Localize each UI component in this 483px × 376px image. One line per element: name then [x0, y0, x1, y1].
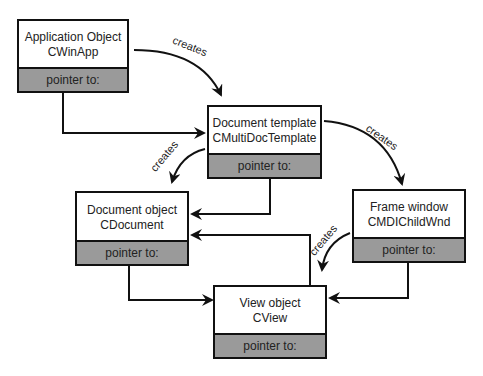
pointer-field: pointer to:	[209, 153, 320, 177]
node-application-object: Application Object CWinApp pointer to:	[17, 19, 129, 93]
node-document-template: Document template CMultiDocTemplate poin…	[207, 105, 322, 179]
pointer-doctemplate-to-document	[192, 178, 270, 214]
node-class: CMDIChildWnd	[368, 215, 451, 230]
pointer-app-to-doctemplate	[63, 92, 204, 133]
pointer-frame-to-view	[330, 262, 408, 298]
creates-app-to-doctemplate	[134, 50, 221, 95]
node-class: CView	[253, 311, 287, 326]
pointer-field: pointer to:	[215, 333, 325, 357]
node-class: CWinApp	[48, 45, 99, 60]
pointer-document-to-view	[129, 265, 212, 300]
node-view-object: View object CView pointer to:	[213, 285, 327, 359]
node-title: Document template	[212, 116, 316, 131]
node-title: Frame window	[370, 200, 448, 215]
creates-doctemplate-to-document	[172, 149, 205, 182]
node-class: CMultiDocTemplate	[212, 131, 316, 146]
pointer-field: pointer to:	[19, 67, 127, 91]
pointer-field: pointer to:	[354, 237, 464, 261]
node-class: CDocument	[100, 218, 163, 233]
pointer-field: pointer to:	[77, 240, 187, 264]
node-title: Application Object	[25, 30, 122, 45]
node-frame-window: Frame window CMDIChildWnd pointer to:	[352, 189, 466, 263]
node-title: Document object	[87, 203, 177, 218]
node-title: View object	[239, 296, 300, 311]
node-document-object: Document object CDocument pointer to:	[75, 191, 189, 266]
